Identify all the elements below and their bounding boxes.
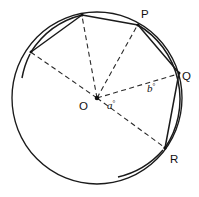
chord-S-T [31,15,82,52]
geometry-figure-svg: O P Q R a° b° [0,0,199,197]
point-P-dot [136,23,139,26]
angle-label-a: a° [107,99,116,111]
point-label-Q: Q [182,70,191,82]
arc-mark-right [138,25,180,148]
point-T-dot [81,14,84,17]
center-point-dot [95,96,100,101]
arc-mark-left-tick [22,54,30,78]
angle-label-b: b° [147,82,156,94]
chord-P-Q [138,25,179,73]
circle-geometry-diagram: O P Q R a° b° [0,0,199,197]
chord-T-P [82,15,138,25]
point-Q-dot [178,72,181,75]
angle-a-degree: ° [113,99,116,107]
radius-O-Q [97,74,178,98]
angle-b-degree: ° [153,82,156,90]
point-label-P: P [141,8,149,20]
point-S-dot [30,51,33,54]
radius-O-T [82,16,97,98]
radius-O-S [32,53,97,98]
point-label-R: R [170,153,178,165]
radius-O-P [97,26,137,98]
point-label-O: O [79,100,88,112]
point-R-dot [163,146,166,149]
arc-mark-bottom-tick [118,150,163,177]
